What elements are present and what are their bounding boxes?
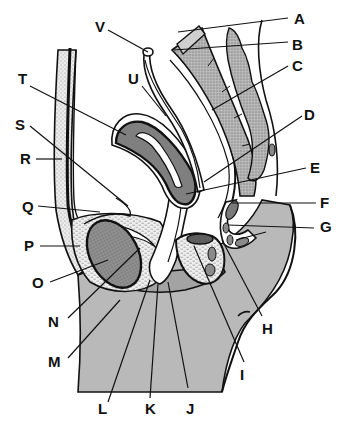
label-K: K	[145, 400, 156, 417]
anatomy-diagram: A B C D E F G H I J K L M N O P Q R S T …	[0, 0, 344, 424]
anal-sphincter-top	[187, 234, 213, 244]
label-G: G	[320, 218, 332, 235]
label-B: B	[292, 36, 303, 53]
label-P: P	[24, 237, 34, 254]
label-S: S	[15, 116, 25, 133]
label-A: A	[294, 10, 305, 27]
label-I: I	[240, 366, 244, 383]
label-R: R	[20, 150, 31, 167]
label-U: U	[128, 70, 139, 87]
label-F: F	[320, 194, 329, 211]
label-J: J	[186, 400, 194, 417]
label-D: D	[304, 106, 315, 123]
sphincter-part	[227, 235, 233, 245]
label-M: M	[48, 353, 61, 370]
leader-V	[108, 30, 148, 52]
leader-T	[30, 86, 126, 135]
label-V: V	[95, 18, 105, 35]
label-T: T	[18, 70, 27, 87]
label-E: E	[310, 159, 320, 176]
label-C: C	[292, 57, 303, 74]
sphincter-segment	[208, 247, 216, 261]
peritoneum-anterior	[73, 50, 84, 224]
label-H: H	[262, 320, 273, 337]
label-O: O	[32, 274, 44, 291]
coccyx	[269, 144, 275, 156]
label-Q: Q	[22, 198, 34, 215]
label-N: N	[48, 313, 59, 330]
label-L: L	[98, 400, 107, 417]
